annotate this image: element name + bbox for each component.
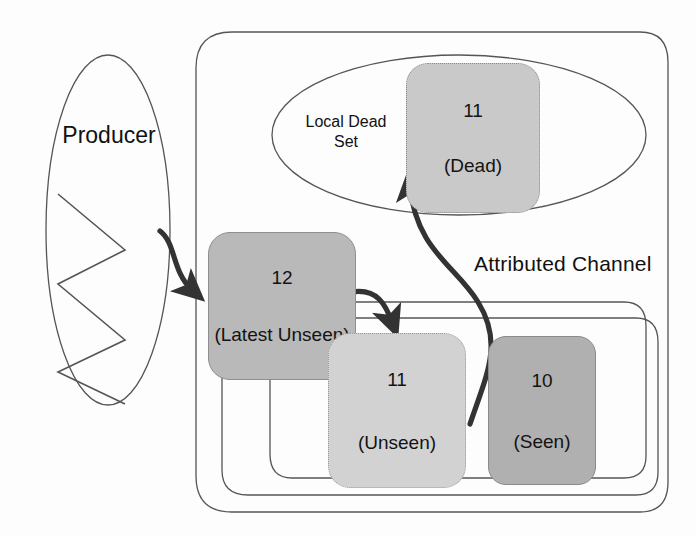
local-dead-set-label-line2: Set	[288, 132, 404, 152]
attributed-channel-label: Attributed Channel	[474, 252, 652, 276]
node-seen-number: 10	[531, 371, 552, 390]
node-dead-state: (Dead)	[444, 156, 502, 175]
node-unseen-state: (Unseen)	[358, 433, 436, 452]
zigzag-signal-icon	[58, 194, 125, 404]
node-unseen[interactable]: 11 (Unseen)	[328, 333, 466, 488]
node-seen-state: (Seen)	[513, 432, 570, 451]
node-latest-unseen-number: 12	[271, 268, 292, 287]
node-seen[interactable]: 10 (Seen)	[488, 336, 596, 485]
node-dead-number: 11	[463, 101, 483, 120]
producer-ellipse	[46, 55, 170, 405]
local-dead-set-label: Local Dead Set	[288, 112, 404, 152]
diagram-canvas: Producer Local Dead Set Attributed Chann…	[0, 0, 696, 536]
node-unseen-number: 11	[387, 370, 407, 389]
arrow-producer-to-latest-unseen	[160, 231, 192, 290]
local-dead-set-label-line1: Local Dead	[288, 112, 404, 132]
producer-label: Producer	[38, 122, 180, 149]
node-latest-unseen-state: (Latest Unseen)	[214, 325, 349, 344]
node-dead[interactable]: 11 (Dead)	[406, 63, 540, 213]
